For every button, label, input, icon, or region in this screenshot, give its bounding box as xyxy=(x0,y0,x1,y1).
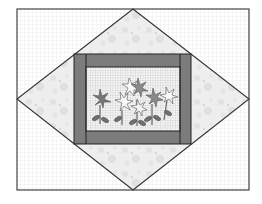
center-frame xyxy=(74,54,191,144)
quilt-block-diagram xyxy=(0,0,262,204)
